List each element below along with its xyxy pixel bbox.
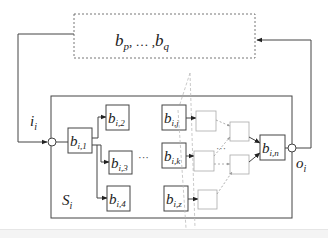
input-label: ii — [30, 113, 37, 132]
edge-b_i1-b_i3 — [92, 145, 109, 162]
bottom-margin — [0, 229, 328, 238]
intermediate-box-4 — [230, 122, 249, 141]
system-block-diagram: bp, … ,bq ii Si oi bi,1 bi,2 bi,3 bi,4 ·… — [0, 0, 328, 238]
external-blocks-group: bp, … ,bq — [74, 14, 255, 58]
block-b_i4: bi,4 — [107, 186, 130, 211]
block-b_i1: bi,1 — [68, 128, 92, 153]
intermediate-box-1 — [196, 111, 216, 131]
input-junction-icon — [48, 138, 56, 146]
block-b_in: bi,n — [260, 135, 285, 160]
external-label: bp, … ,bq — [115, 31, 170, 52]
output-junction-icon — [288, 144, 296, 152]
edge-s5-b_in — [249, 153, 260, 162]
input-feedback-line — [18, 34, 74, 142]
edge-s1-s4 — [216, 120, 230, 126]
ellipsis-middle: ··· — [138, 151, 149, 163]
ellipsis-right: ··· — [216, 143, 226, 154]
block-b_ij: bi,j — [162, 105, 186, 130]
edge-s4-b_in — [249, 137, 260, 143]
intermediate-box-3 — [198, 190, 217, 209]
block-b_i3: bi,3 — [109, 151, 132, 174]
partition-line-2 — [178, 73, 190, 110]
edge-b_i1-b_i2 — [92, 117, 106, 138]
system-label: Si — [62, 192, 73, 211]
block-b_ik: bi,k — [162, 143, 186, 168]
block-b_i2: bi,2 — [106, 105, 129, 130]
edge-s3-s5 — [217, 172, 232, 194]
intermediate-box-2 — [194, 151, 214, 171]
intermediate-box-5 — [230, 155, 249, 174]
output-feedback-line — [257, 40, 311, 148]
output-label: oi — [296, 155, 307, 174]
edge-b_i1-b_i4 — [97, 145, 107, 198]
